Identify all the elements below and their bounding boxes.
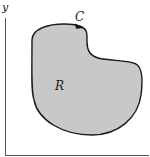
diagram-canvas: y C R	[0, 0, 150, 157]
region-label-r: R	[54, 79, 64, 93]
curve-label-c: C	[75, 10, 84, 24]
y-axis-label: y	[1, 1, 9, 14]
curve-orientation-arrow-icon	[75, 24, 84, 29]
region-diagram: y C R	[0, 0, 150, 157]
region-r	[32, 24, 142, 135]
